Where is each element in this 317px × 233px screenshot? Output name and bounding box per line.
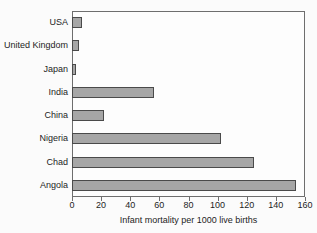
x-tick-label: 140	[268, 200, 283, 210]
x-tick-label: 160	[297, 200, 312, 210]
bar-row	[72, 81, 305, 104]
bar	[72, 40, 79, 51]
bar-row	[72, 127, 305, 150]
x-tick-label: 0	[69, 200, 74, 210]
category-label: United Kingdom	[4, 34, 68, 57]
category-label: Japan	[43, 58, 68, 81]
bar-row	[72, 104, 305, 127]
bar-row	[72, 174, 305, 197]
bar-row	[72, 58, 305, 81]
x-tick-label: 60	[154, 200, 164, 210]
bar	[72, 87, 154, 98]
bar-chart: USAUnited KingdomJapanIndiaChinaNigeriaC…	[0, 0, 317, 233]
x-tick-label: 40	[125, 200, 135, 210]
bar	[72, 157, 254, 168]
x-axis-title: Infant mortality per 1000 live births	[72, 215, 305, 225]
category-label: Angola	[40, 174, 68, 197]
category-label: China	[44, 104, 68, 127]
bar-row	[72, 34, 305, 57]
bar	[72, 180, 296, 191]
category-label: Chad	[46, 151, 68, 174]
x-tick-label: 120	[239, 200, 254, 210]
category-axis-labels: USAUnited KingdomJapanIndiaChinaNigeriaC…	[0, 11, 68, 197]
bar	[72, 64, 76, 75]
bar	[72, 133, 221, 144]
bar	[72, 110, 104, 121]
bar	[72, 17, 82, 28]
x-tick-label: 20	[96, 200, 106, 210]
x-axis-tick-labels: 020406080100120140160	[72, 200, 305, 214]
bar-row	[72, 11, 305, 34]
category-label: USA	[49, 11, 68, 34]
bar-row	[72, 151, 305, 174]
category-label: India	[48, 81, 68, 104]
bars-layer	[72, 11, 305, 197]
category-label: Nigeria	[39, 127, 68, 150]
x-tick-label: 100	[210, 200, 225, 210]
x-tick-label: 80	[183, 200, 193, 210]
